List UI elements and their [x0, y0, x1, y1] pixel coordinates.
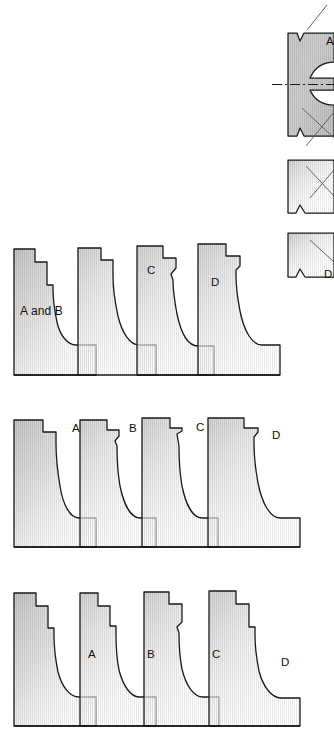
- profile-label-a-row3: A: [88, 649, 96, 661]
- profile-label-d-row2: D: [272, 430, 280, 442]
- detail-section-second: [288, 160, 334, 213]
- figure-canvas: A D A and B C D A B C D A B C D: [0, 0, 334, 741]
- profile-label-a-row2: A: [72, 423, 80, 435]
- profile-plate-svg: [0, 0, 334, 741]
- profile-shape-d-row2: [208, 418, 300, 547]
- profile-label-d-row1: D: [211, 277, 219, 289]
- profile-label-a-and-b: A and B: [20, 305, 63, 317]
- profile-shape-c-row3: [144, 592, 219, 726]
- profile-row-lower-group: [14, 591, 300, 726]
- detail-label-d: D: [324, 269, 332, 281]
- profile-label-c-row2: C: [196, 422, 204, 434]
- profile-label-d-row3: D: [281, 657, 289, 669]
- detail-drawing-group: [272, 5, 334, 277]
- profile-label-c-row1: C: [147, 265, 155, 277]
- detail-label-a: A: [326, 36, 334, 48]
- profile-row-middle-group: [14, 418, 300, 547]
- profile-label-b-row2: B: [129, 423, 137, 435]
- profile-label-b-row3: B: [147, 649, 155, 661]
- profile-shape-c-row2: [142, 418, 218, 547]
- leader-line-a: [307, 5, 327, 30]
- profile-label-c-row3: C: [212, 649, 220, 661]
- profile-shape-d-row1: [198, 244, 280, 375]
